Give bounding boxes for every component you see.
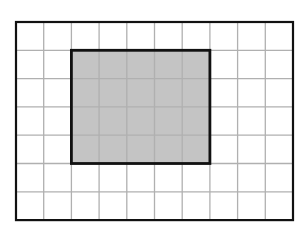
grid-diagram bbox=[0, 0, 302, 233]
